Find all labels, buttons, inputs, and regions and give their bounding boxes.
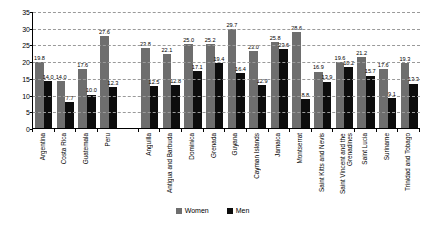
x-axis-tick	[268, 128, 269, 132]
bar-value-label: 7.7	[66, 96, 74, 102]
y-axis-tick	[30, 79, 33, 80]
x-axis-label: Peru	[104, 133, 113, 147]
chart-legend: WomenMen	[0, 207, 425, 214]
bar-men: 23.6	[279, 49, 288, 128]
legend-swatch-icon	[176, 208, 182, 214]
y-axis-tick-label: 5	[26, 109, 30, 116]
bar-chart: 19.814.014.07.717.610.027.612.323.812.52…	[0, 0, 425, 230]
bar-value-label: 12.3	[108, 81, 119, 87]
gridline	[33, 96, 420, 97]
x-axis-tick	[419, 128, 420, 132]
bar-women: 28.6	[292, 32, 301, 128]
legend-item-men[interactable]: Men	[227, 207, 250, 214]
bar-men: 18.2	[344, 67, 353, 128]
x-axis-tick	[75, 128, 76, 132]
x-axis-label: Montserrat	[296, 133, 305, 164]
x-axis-tick	[289, 128, 290, 132]
bar-men: 7.7	[65, 102, 74, 128]
legend-swatch-icon	[227, 208, 233, 214]
bar-value-label: 16.4	[235, 67, 246, 73]
x-axis-tick	[332, 128, 333, 132]
bar-men: 10.0	[87, 95, 96, 128]
x-axis-tick	[376, 128, 377, 132]
x-axis-tick	[311, 128, 312, 132]
bar-men: 12.8	[171, 85, 180, 128]
x-axis-label: Guyana	[231, 133, 240, 155]
x-axis-label: Grenada	[210, 133, 219, 158]
legend-label: Women	[185, 207, 209, 214]
x-axis-label: Dominica	[188, 133, 197, 160]
y-axis-tick	[30, 45, 33, 46]
gridline	[33, 79, 420, 80]
y-axis-tick-label: 30	[22, 25, 30, 32]
y-axis-tick-label: 20	[22, 59, 30, 66]
x-axis-label: Antigua and Barbuda	[166, 133, 175, 193]
x-axis-tick	[354, 128, 355, 132]
x-axis-label: Saint Lucia	[361, 133, 370, 165]
legend-label: Men	[236, 207, 250, 214]
x-axis-tick	[97, 128, 98, 132]
x-axis-tick	[32, 128, 33, 132]
x-axis-label: Suriname	[383, 133, 392, 160]
bar-men: 16.4	[236, 73, 245, 128]
bar-value-label: 12.5	[149, 80, 160, 86]
y-axis-tick	[30, 62, 33, 63]
gridline	[33, 12, 420, 13]
bar-women: 25.0	[184, 44, 193, 128]
bar-men: 13.3	[409, 84, 418, 128]
x-axis-labels: ArgentinaCosta RicaGuatemalaPeruAnguilla…	[32, 133, 418, 213]
x-axis-tick	[224, 128, 225, 132]
y-axis-tick-label: 15	[22, 75, 30, 82]
x-axis-label: Guatemala	[82, 133, 91, 164]
bar-women: 25.8	[271, 42, 280, 128]
bar-value-label: 12.8	[170, 79, 181, 85]
y-axis-tick	[30, 96, 33, 97]
x-axis-label: Cayman Islands	[253, 133, 262, 179]
bar-men: 8.8	[301, 99, 310, 128]
y-axis-tick-label: 0	[26, 126, 30, 133]
bar-value-label: 17.1	[192, 65, 203, 71]
x-axis-tick	[246, 128, 247, 132]
y-axis-tick-label: 25	[22, 42, 30, 49]
bar-women: 22.1	[163, 54, 172, 128]
y-axis-tick	[30, 112, 33, 113]
x-axis-label: Saint Vincent and the Grenadines	[339, 133, 348, 211]
x-axis-tick	[138, 128, 139, 132]
x-axis-label: Jamaica	[274, 133, 283, 157]
x-axis-tick	[159, 128, 160, 132]
x-axis-label: Costa Rica	[60, 133, 69, 164]
plot-area: 19.814.014.07.717.610.027.612.323.812.52…	[32, 12, 419, 129]
y-axis-tick-label: 35	[22, 9, 30, 16]
gridline	[33, 112, 420, 113]
y-axis-tick	[30, 12, 33, 13]
legend-item-women[interactable]: Women	[176, 207, 209, 214]
gridline	[33, 45, 420, 46]
y-axis-tick-label: 10	[22, 92, 30, 99]
x-axis-label: Trinidad and Tobago	[404, 133, 413, 191]
x-axis-tick	[397, 128, 398, 132]
bar-men: 15.7	[366, 76, 375, 128]
bar-women: 23.8	[141, 48, 150, 128]
x-axis-label: Saint Kitts and Nevis	[318, 133, 327, 192]
bar-value-label: 15.7	[365, 69, 376, 75]
bar-women: 14.0	[57, 81, 66, 128]
bar-men: 12.5	[150, 86, 159, 128]
bar-men: 13.9	[323, 82, 332, 128]
bar-value-label: 10.0	[86, 88, 97, 94]
y-axis-tick	[30, 29, 33, 30]
x-axis-tick	[181, 128, 182, 132]
x-axis-tick	[54, 128, 55, 132]
gridline	[33, 62, 420, 63]
gridline	[33, 29, 420, 30]
x-axis-label: Anguilla	[145, 133, 154, 156]
x-axis-tick	[203, 128, 204, 132]
bar-men: 12.9	[258, 85, 267, 128]
x-axis-label: Argentina	[39, 133, 48, 160]
bar-men: 12.3	[109, 87, 118, 128]
bar-men: 14.0	[44, 81, 53, 128]
